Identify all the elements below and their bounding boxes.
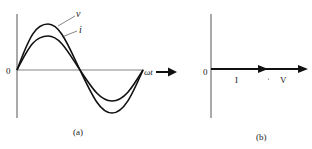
v-leader-line — [58, 16, 75, 26]
caption-b: (b) — [256, 132, 267, 142]
i-label: i — [79, 24, 82, 35]
i-leader-line — [62, 31, 77, 37]
phasor-i-arrowhead-icon — [258, 65, 268, 73]
omega-t-label: ωt — [144, 67, 153, 77]
origin-label-a: 0 — [6, 66, 11, 76]
origin-label-b: 0 — [203, 67, 208, 77]
panel-a: v i 0 ωt (a) — [6, 8, 177, 137]
dot-mark — [268, 78, 269, 79]
diagram-canvas: v i 0 ωt (a) 0 I V (b) — [0, 0, 312, 149]
v-label: v — [76, 8, 81, 19]
phasor-v-label: V — [280, 75, 287, 85]
voltage-curve — [17, 24, 143, 113]
phasor-v-arrowhead-icon — [298, 65, 308, 73]
panel-b: 0 I V (b) — [203, 14, 308, 142]
omega-t-arrow-head-icon — [168, 68, 177, 77]
phasor-i-label: I — [235, 75, 238, 85]
caption-a: (a) — [73, 127, 83, 137]
